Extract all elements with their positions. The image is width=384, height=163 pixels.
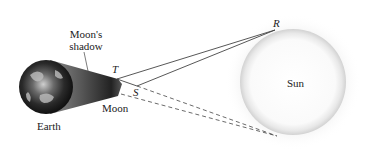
moons-shadow-label: Moon's shadow <box>66 28 106 52</box>
moons-shadow-label-line2: shadow <box>66 40 106 52</box>
point-s-label: S <box>133 86 139 98</box>
sun-label: Sun <box>287 77 304 89</box>
earth <box>19 60 73 114</box>
point-r-label: R <box>273 17 280 29</box>
shadow-pointer-line <box>84 52 88 71</box>
moon-label: Moon <box>102 102 128 114</box>
eclipse-diagram <box>0 0 384 163</box>
earth-label: Earth <box>37 120 61 132</box>
point-t-label: T <box>112 63 118 75</box>
moons-shadow-label-line1: Moon's <box>66 28 106 40</box>
